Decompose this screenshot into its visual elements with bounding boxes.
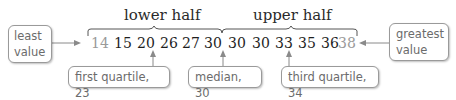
third-quartile-callout: third quartile, 34 <box>281 66 379 88</box>
data-value: 30 <box>228 35 246 51</box>
data-value: 33 <box>275 35 293 51</box>
data-value: 15 <box>114 35 132 51</box>
quartile-diagram: lower half upper half 14 15 20 26 27 30 … <box>0 0 456 100</box>
data-value: 14 <box>91 35 109 51</box>
greatest-value-line2: value <box>396 42 442 58</box>
data-value: 35 <box>298 35 316 51</box>
first-quartile-callout: first quartile, 23 <box>68 66 170 88</box>
least-value-line2: value <box>14 44 46 60</box>
data-value: 38 <box>338 35 356 51</box>
least-value-line1: least <box>14 28 46 44</box>
data-value: 20 <box>137 35 155 51</box>
data-value: 27 <box>182 35 200 51</box>
greatest-value-line1: greatest <box>396 26 442 42</box>
upper-half-label: upper half <box>253 6 332 24</box>
data-value: 26 <box>160 35 178 51</box>
data-value: 30 <box>252 35 270 51</box>
least-value-callout: least value <box>8 25 52 63</box>
greatest-value-callout: greatest value <box>389 23 449 61</box>
median-callout: median, 30 <box>188 66 262 88</box>
lower-half-label: lower half <box>124 6 200 24</box>
data-value: 36 <box>321 35 339 51</box>
data-value: 30 <box>204 35 222 51</box>
